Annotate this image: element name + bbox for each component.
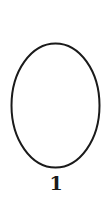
figure-number-label: 1 <box>0 173 112 193</box>
ellipse-figure: 1 <box>0 0 112 212</box>
ellipse-outline <box>12 44 100 168</box>
